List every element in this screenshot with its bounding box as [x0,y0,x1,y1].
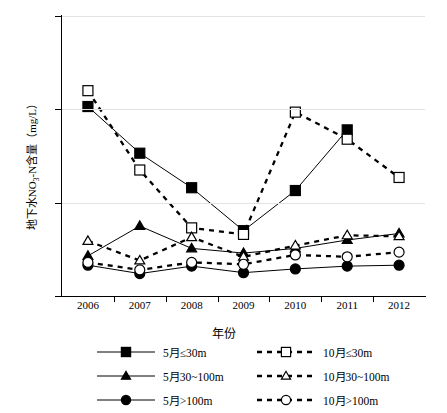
y-axis-title-sub: 3 [32,177,41,181]
series-line [88,107,347,231]
open-triangle-marker [83,236,93,244]
y-axis-tick [55,109,62,110]
legend-label: 5月>100m [157,392,212,408]
legend-item[interactable]: 10月30~100m [255,365,389,387]
filled-square-marker [290,186,300,196]
legend-label: 10月30~100m [317,368,389,384]
open-circle-marker [281,395,290,404]
legend-label: 10月>100m [317,392,378,408]
open-circle-marker [342,252,352,262]
filled-square-marker [135,148,145,158]
x-axis-title: 年份 [0,324,447,342]
legend-item[interactable]: 5月≤30m [95,341,207,363]
gridline [62,203,425,204]
gridline [62,16,425,17]
filled-circle-marker [290,264,300,274]
filled-square-marker [121,347,130,356]
legend-label: 10月≤30m [317,344,372,360]
open-circle-marker [83,257,93,267]
filled-triangle-marker [187,243,197,251]
y-axis-title: 地下水NO3-N含量（mg/L） [23,54,41,274]
y-axis-tick [55,16,62,17]
legend-label: 5月30~100m [157,368,224,384]
open-square-marker [239,229,249,239]
legend-item[interactable]: 5月>100m [95,389,212,411]
legend-marker [95,366,157,386]
filled-circle-marker [394,260,404,270]
open-square-marker [83,86,93,96]
y-axis-tick [55,203,62,204]
open-square-marker [394,172,404,182]
legend: 5月≤30m10月≤30m5月30~100m10月30~100m5月>100m1… [0,341,447,413]
filled-circle-marker [121,395,130,404]
legend-marker [255,342,317,362]
open-square-marker [135,165,145,175]
chart-figure: 地下水NO3-N含量（mg/L） 0102030 200620072008200… [0,0,447,413]
legend-marker [95,342,157,362]
filled-triangle-marker [121,371,130,379]
legend-label: 5月≤30m [157,344,207,360]
open-circle-marker [135,265,145,275]
open-circle-marker [290,250,300,260]
legend-item[interactable]: 5月30~100m [95,365,224,387]
plot-area [62,16,425,296]
filled-circle-marker [342,261,352,271]
y-axis-title-pre: 地下水NO [26,181,38,230]
open-square-marker [281,347,290,356]
filled-square-marker [342,125,352,135]
series-filled-square [83,102,352,236]
open-circle-marker [187,257,197,267]
open-circle-marker [239,259,249,269]
legend-marker [255,390,317,410]
legend-item[interactable]: 10月≤30m [255,341,372,363]
x-axis-line [61,296,426,297]
y-axis-title-post: -N含量（mg/L） [26,98,38,177]
legend-item[interactable]: 10月>100m [255,389,378,411]
open-circle-marker [394,247,404,257]
series-layer [62,16,425,296]
open-square-marker [342,134,352,144]
x-tick-label: 2012 [369,299,429,311]
series-line [88,91,399,235]
gridline [62,109,425,110]
open-triangle-marker [342,230,352,238]
filled-triangle-marker [135,221,145,229]
y-axis-tick [55,296,62,297]
filled-square-marker [187,183,197,193]
legend-marker [255,366,317,386]
legend-marker [95,390,157,410]
